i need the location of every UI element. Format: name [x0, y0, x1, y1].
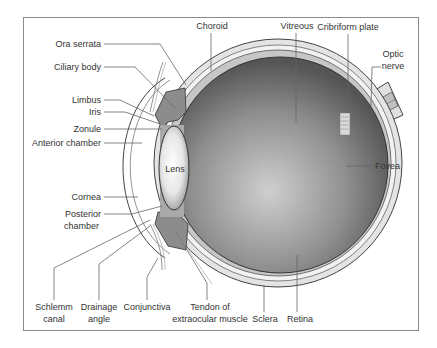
svg-text:Anterior chamber: Anterior chamber [32, 138, 101, 148]
svg-text:Cornea: Cornea [71, 192, 101, 202]
svg-text:canal: canal [43, 314, 65, 324]
svg-text:Ora serrata: Ora serrata [55, 39, 101, 49]
svg-text:Cribriform plate: Cribriform plate [317, 22, 379, 32]
svg-text:Drainage: Drainage [81, 302, 118, 312]
svg-text:Choroid: Choroid [196, 21, 228, 31]
svg-text:Posterior: Posterior [65, 209, 101, 219]
svg-text:Vitreous: Vitreous [281, 21, 314, 31]
svg-text:Ciliary body: Ciliary body [54, 62, 102, 72]
svg-text:Zonule: Zonule [73, 124, 101, 134]
svg-text:Sclera: Sclera [252, 314, 278, 324]
eye-anatomy-diagram: Ora serrata Ciliary body Limbus Iris Zon… [0, 0, 437, 348]
svg-text:chamber: chamber [64, 221, 99, 231]
svg-text:Lens: Lens [165, 164, 185, 174]
vitreous [172, 57, 388, 273]
svg-text:Iris: Iris [89, 107, 101, 117]
svg-text:Optic: Optic [382, 49, 404, 59]
svg-text:Fovea: Fovea [375, 161, 400, 171]
svg-text:angle: angle [88, 314, 110, 324]
cribriform-plate [340, 113, 350, 135]
label-lens: Lens [165, 164, 185, 174]
svg-text:Retina: Retina [287, 314, 313, 324]
svg-text:Conjunctiva: Conjunctiva [123, 302, 170, 312]
svg-text:Tendon of: Tendon of [190, 302, 230, 312]
svg-text:Limbus: Limbus [72, 95, 102, 105]
svg-text:nerve: nerve [382, 61, 405, 71]
svg-text:Schlemm: Schlemm [35, 302, 73, 312]
svg-text:extraocular muscle: extraocular muscle [172, 314, 248, 324]
